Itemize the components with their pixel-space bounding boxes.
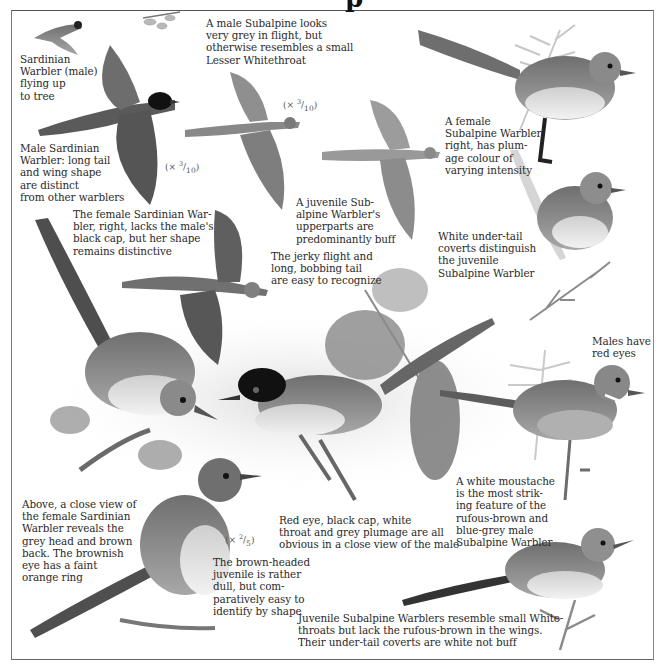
- scale-label: (× 2/5): [225, 533, 254, 548]
- caption-juvenile-subalpine-buff: A juvenile Sub- alpine Warbler's upperpa…: [296, 196, 395, 245]
- caption-juvenile-subalpine-whitethroat: Juvenile Subalpine Warblers resemble sma…: [298, 612, 563, 649]
- caption-sardinian-male-flying: Sardinian Warbler (male) flying up to tr…: [20, 53, 98, 102]
- caption-female-sardinian-closeup: Above, a close view of the female Sardin…: [22, 498, 136, 583]
- scale-label: (× 3/10): [283, 98, 317, 113]
- sardinian-male-flying-small-icon: [34, 21, 82, 55]
- caption-brown-headed-juvenile: The brown-headed juvenile is rather dull…: [213, 556, 310, 617]
- caption-jerky-flight: The jerky flight and long, bobbing tail …: [271, 250, 382, 287]
- caption-under-tail-coverts: White under-tail coverts distinguish the…: [438, 230, 536, 279]
- scale-label: (× 3/10): [165, 160, 199, 175]
- caption-female-sardinian: The female Sardinian War- bler, right, l…: [73, 208, 213, 257]
- caption-red-eyes: Males have red eyes: [592, 335, 651, 359]
- caption-white-moustache: A white moustache is the most strik- ing…: [456, 475, 555, 548]
- caption-male-sardinian-shape: Male Sardinian Warbler: long tail and wi…: [20, 142, 124, 203]
- caption-female-subalpine: A female Subalpine Warbler, right, has p…: [445, 115, 544, 176]
- caption-male-subalpine-flight: A male Subalpine looks very grey in flig…: [206, 17, 353, 66]
- leaf-sprig-icon: [143, 12, 180, 29]
- subalpine-male-flight-icon: [185, 72, 300, 210]
- caption-male-sardinian-closeup: Red eye, black cap, white throat and gre…: [279, 514, 459, 551]
